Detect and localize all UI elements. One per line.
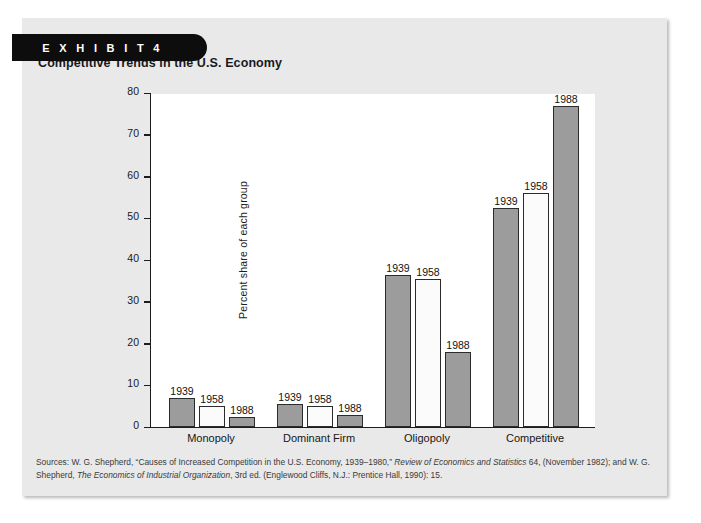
bar: 1958 bbox=[199, 406, 225, 427]
bar: 1988 bbox=[337, 415, 363, 427]
page-root: E X H I B I T 4 Competitive Trends in th… bbox=[0, 0, 701, 523]
y-axis-label: Percent share of each group bbox=[237, 150, 249, 350]
bar: 1988 bbox=[445, 352, 471, 427]
bar: 1988 bbox=[553, 106, 579, 427]
y-tick-label: 0 bbox=[133, 419, 139, 431]
y-tick-mark bbox=[144, 218, 151, 220]
bar-series-label: 1939 bbox=[170, 385, 193, 397]
exhibit-tab: E X H I B I T 4 bbox=[12, 34, 207, 61]
bar-series-label: 1939 bbox=[278, 391, 301, 403]
y-tick-label: 60 bbox=[127, 169, 139, 181]
bar: 1958 bbox=[415, 279, 441, 427]
bar: 1939 bbox=[493, 208, 519, 427]
bar-series-label: 1939 bbox=[494, 195, 517, 207]
y-tick-mark bbox=[144, 427, 151, 429]
exhibit-tab-label: E X H I B I T 4 bbox=[12, 42, 193, 54]
y-tick-label: 50 bbox=[127, 210, 139, 222]
bar-series-label: 1988 bbox=[338, 402, 361, 414]
y-tick-mark bbox=[144, 343, 151, 345]
y-tick-label: 40 bbox=[127, 252, 139, 264]
bar: 1939 bbox=[169, 398, 195, 427]
chart-figure: Percent share of each group 010203040506… bbox=[22, 18, 667, 496]
source-note: Sources: W. G. Shepherd, “Causes of Incr… bbox=[36, 456, 656, 481]
source-italic-journal: Review of Economics and Statistics bbox=[394, 457, 526, 467]
y-tick-mark bbox=[144, 134, 151, 136]
source-prefix: Sources: W. G. Shepherd, “Causes of Incr… bbox=[36, 457, 394, 467]
source-suffix: , 3rd ed. (Englewood Cliffs, N.J.: Prent… bbox=[230, 470, 442, 480]
bar: 1958 bbox=[307, 406, 333, 427]
source-italic-book: The Economics of Industrial Organization bbox=[77, 470, 230, 480]
y-tick-mark bbox=[144, 93, 151, 95]
exhibit-card: E X H I B I T 4 Competitive Trends in th… bbox=[22, 18, 667, 496]
y-tick-mark bbox=[144, 385, 151, 387]
y-tick-mark bbox=[144, 260, 151, 262]
bar-series-label: 1958 bbox=[416, 266, 439, 278]
y-tick-label: 70 bbox=[127, 127, 139, 139]
bar: 1988 bbox=[229, 417, 255, 427]
y-tick-mark bbox=[144, 301, 151, 303]
bar: 1939 bbox=[277, 404, 303, 427]
bar-series-label: 1988 bbox=[554, 93, 577, 105]
bar-series-label: 1958 bbox=[200, 393, 223, 405]
bar-series-label: 1988 bbox=[230, 404, 253, 416]
bar-series-label: 1958 bbox=[308, 393, 331, 405]
bar-series-label: 1988 bbox=[446, 339, 469, 351]
plot-area: Percent share of each group 010203040506… bbox=[150, 94, 595, 428]
y-tick-label: 80 bbox=[127, 85, 139, 97]
y-tick-label: 30 bbox=[127, 294, 139, 306]
y-tick-mark bbox=[144, 176, 151, 178]
bar-series-label: 1939 bbox=[386, 262, 409, 274]
bar: 1958 bbox=[523, 193, 549, 427]
y-tick-label: 10 bbox=[127, 377, 139, 389]
bar-series-label: 1958 bbox=[524, 180, 547, 192]
y-tick-label: 20 bbox=[127, 336, 139, 348]
bar: 1939 bbox=[385, 275, 411, 427]
x-axis-category-label: Competitive bbox=[467, 432, 603, 444]
